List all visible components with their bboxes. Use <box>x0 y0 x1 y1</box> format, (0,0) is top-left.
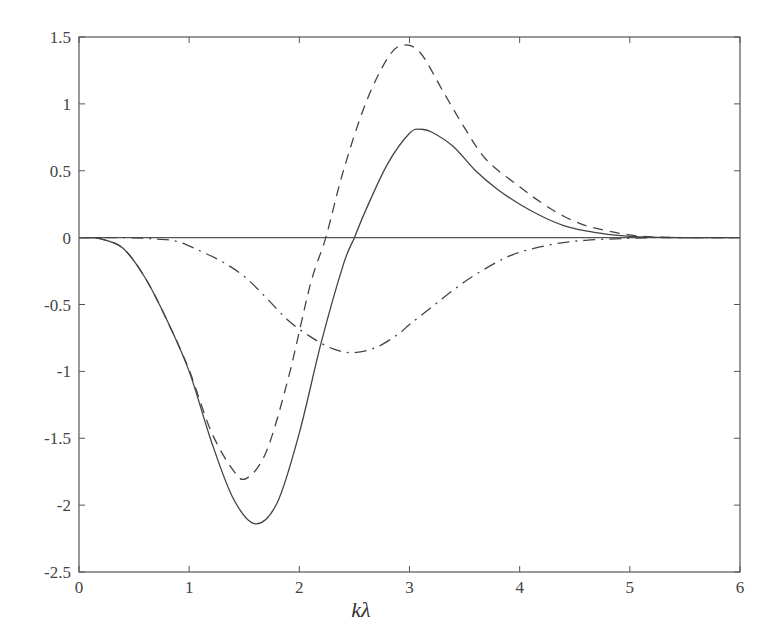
series-group <box>79 45 740 524</box>
x-tick-label: 2 <box>295 578 304 597</box>
x-tick-label: 4 <box>515 578 524 597</box>
plot-area <box>79 37 740 572</box>
x-tick-label: 6 <box>736 578 745 597</box>
x-tick-label: 5 <box>626 578 635 597</box>
x-tick-label: 1 <box>185 578 194 597</box>
x-axis-label: kλ <box>351 597 370 622</box>
y-tick-label: -1.5 <box>44 429 71 448</box>
y-axis: 1.510.50-0.5-1-1.5-2-2.5 <box>44 28 740 582</box>
y-tick-label: -0.5 <box>44 296 71 315</box>
y-tick-label: -2.5 <box>44 563 71 582</box>
x-tick-label: 0 <box>75 578 84 597</box>
line-chart: 0123456 1.510.50-0.5-1-1.5-2-2.5 kλ <box>0 0 783 644</box>
series-dash-dot-line <box>79 238 740 353</box>
series-solid-line <box>79 129 740 524</box>
y-tick-label: -2 <box>57 496 71 515</box>
plot-frame <box>79 37 740 572</box>
y-tick-label: 0.5 <box>50 162 71 181</box>
y-tick-label: 1 <box>63 95 72 114</box>
y-tick-label: 0 <box>63 229 72 248</box>
x-tick-label: 3 <box>405 578 414 597</box>
x-axis: 0123456 <box>75 37 745 597</box>
series-dashed-line <box>79 45 740 480</box>
y-tick-label: -1 <box>57 362 71 381</box>
y-tick-label: 1.5 <box>50 28 71 47</box>
